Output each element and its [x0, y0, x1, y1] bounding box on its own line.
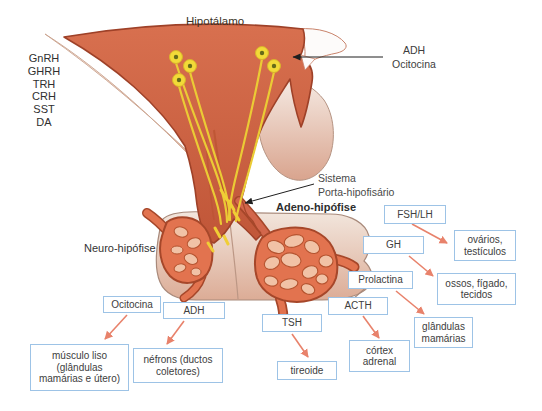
box-musculo-liso: músculo liso (glândulas mamárias e útero… — [30, 344, 129, 391]
hormone-trh: TRH — [14, 78, 74, 91]
portal-system-label: Sistema Porta-hipofisário — [318, 171, 394, 199]
arrow-adh-nefrons — [167, 321, 184, 344]
diagram-canvas: Hipotálamo GnRH GHRH TRH CRH SST DA ADH … — [0, 0, 542, 411]
adh-label: ADH — [384, 43, 444, 57]
hypothalamic-hormones-list: GnRH GHRH TRH CRH SST DA — [14, 52, 74, 129]
arrow-ocitocina-musculo — [105, 315, 127, 339]
box-ovarios-testiculos: ovários, testículos — [454, 230, 516, 261]
box-tsh: TSH — [262, 314, 322, 332]
box-prolactina: Prolactina — [348, 271, 413, 289]
box-adh: ADH — [163, 302, 225, 319]
box-acth: ACTH — [328, 297, 388, 315]
box-cortex-adrenal: córtex adrenal — [349, 340, 410, 372]
hormone-gnrh: GnRH — [14, 52, 74, 65]
box-glandulas-mamarias: glândulas mamárias — [414, 317, 473, 348]
ocitocina-label: Ocitocina — [384, 57, 444, 71]
box-nefrons: néfrons (ductos coletores) — [133, 348, 223, 383]
box-tireoide: tireoide — [277, 361, 337, 380]
hormone-sst: SST — [14, 103, 74, 116]
arrow-prolactina-glandulas — [396, 291, 424, 314]
hypothalamus-label: Hipotálamo — [186, 15, 244, 28]
hormone-da: DA — [14, 116, 74, 129]
box-gh: GH — [363, 236, 424, 254]
hormone-ghrh: GHRH — [14, 65, 74, 78]
box-ocitocina: Ocitocina — [103, 296, 161, 313]
box-ossos-figado-tecidos: ossos, fígado, tecidos — [437, 273, 516, 305]
arrow-acth-cortex — [363, 316, 379, 338]
arrow-tsh-tireoide — [292, 334, 308, 357]
box-fsh-lh: FSH/LH — [384, 205, 446, 224]
posterior-hormones-label: ADH Ocitocina — [384, 43, 444, 71]
neurohypophysis-label: Neuro-hipófise — [84, 242, 156, 255]
hormone-crh: CRH — [14, 90, 74, 103]
adenohypophysis-label: Adeno-hipófise — [276, 201, 356, 214]
